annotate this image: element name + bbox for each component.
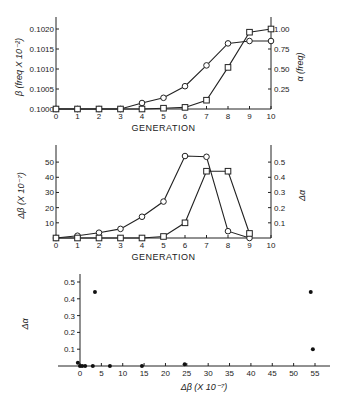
line-chart-1: 012345678910GENERATION0.10000.10050.1010… <box>14 17 305 133</box>
data-point <box>140 364 144 368</box>
square-marker <box>225 168 231 174</box>
x-tick-label: 15 <box>140 369 149 378</box>
square-marker <box>182 220 188 226</box>
circle-marker <box>139 100 145 106</box>
x-tick-label: 25 <box>182 369 191 378</box>
left-tick-label: 40 <box>45 173 54 182</box>
right-tick-label: 0.50 <box>274 65 290 74</box>
x-tick-label: 7 <box>204 112 209 121</box>
circle-marker <box>182 83 188 89</box>
left-axis-title: Δβ (X 10⁻⁷) <box>16 172 26 220</box>
y-tick-label: 0.2 <box>64 328 76 337</box>
square-marker <box>247 29 253 35</box>
square-marker <box>75 106 81 112</box>
circle-marker <box>182 153 188 159</box>
right-tick-label: 0.2 <box>274 204 286 213</box>
square-marker <box>268 26 274 32</box>
y-tick-label: 0.4 <box>64 295 76 304</box>
square-marker <box>225 65 231 71</box>
x-tick-label: 6 <box>183 112 188 121</box>
square-marker <box>139 235 145 241</box>
circle-marker <box>247 38 253 44</box>
x-tick-label: 10 <box>267 112 276 121</box>
square-marker <box>118 235 124 241</box>
right-tick-label: 1.00 <box>274 25 290 34</box>
x-tick-label: 4 <box>140 241 145 250</box>
square-marker <box>204 97 210 103</box>
data-point <box>91 364 95 368</box>
x-tick-label: 5 <box>99 369 104 378</box>
x-axis-label: GENERATION <box>132 252 196 262</box>
data-point <box>309 290 313 294</box>
x-tick-label: 4 <box>140 112 145 121</box>
circle-marker <box>204 154 210 160</box>
square-marker <box>96 235 102 241</box>
y-tick-label: 0.1 <box>64 345 76 354</box>
data-point <box>108 364 112 368</box>
circle-marker <box>268 38 274 44</box>
square-marker <box>75 235 81 241</box>
x-tick-label: 2 <box>97 241 102 250</box>
data-point <box>311 347 315 351</box>
circle-marker <box>225 41 231 47</box>
x-axis-label: Δβ (X 10⁻⁷) <box>180 382 228 392</box>
x-tick-label: 8 <box>226 241 231 250</box>
square-marker <box>118 106 124 112</box>
x-tick-label: 3 <box>118 241 123 250</box>
right-tick-label: 0.5 <box>274 158 286 167</box>
circle-marker <box>96 230 102 236</box>
square-marker <box>53 106 59 112</box>
x-tick-label: 7 <box>204 241 209 250</box>
circle-marker <box>225 228 231 234</box>
left-tick-label: 0.1005 <box>30 85 55 94</box>
x-tick-label: 50 <box>289 369 298 378</box>
y-tick-label: 0.3 <box>64 312 76 321</box>
right-axis-title: α (freq) <box>295 52 305 81</box>
left-tick-label: 10 <box>45 219 54 228</box>
x-tick-label: 55 <box>311 369 320 378</box>
left-axis-title: β (freq X 10⁻²) <box>14 38 24 97</box>
right-tick-label: 0.4 <box>274 173 286 182</box>
data-point <box>183 362 187 366</box>
x-tick-label: 0 <box>54 241 59 250</box>
left-tick-label: 50 <box>45 158 54 167</box>
right-tick-label: 0.25 <box>274 85 290 94</box>
left-tick-label: 0.1000 <box>30 105 55 114</box>
x-tick-label: 2 <box>97 112 102 121</box>
left-tick-label: 0.1010 <box>30 65 55 74</box>
right-axis-title: Δα <box>297 189 307 202</box>
circle-marker <box>161 199 167 205</box>
square-marker <box>204 168 210 174</box>
x-tick-label: 35 <box>225 369 234 378</box>
right-tick-label: 0.1 <box>274 219 286 228</box>
x-axis-label: GENERATION <box>132 123 196 133</box>
left-tick-label: 0.1015 <box>30 45 55 54</box>
x-tick-label: 0 <box>54 112 59 121</box>
square-marker <box>53 235 59 241</box>
x-tick-label: 3 <box>118 112 123 121</box>
x-tick-label: 10 <box>118 369 127 378</box>
x-tick-label: 8 <box>226 112 231 121</box>
x-tick-label: 20 <box>161 369 170 378</box>
square-marker <box>182 105 188 111</box>
square-marker <box>247 231 253 237</box>
x-tick-label: 0 <box>78 369 83 378</box>
x-tick-label: 9 <box>247 112 252 121</box>
x-tick-label: 5 <box>161 241 166 250</box>
x-tick-label: 45 <box>268 369 277 378</box>
right-tick-label: 0.75 <box>274 45 290 54</box>
circle-marker <box>139 214 145 220</box>
square-marker <box>139 106 145 112</box>
x-tick-label: 1 <box>75 112 80 121</box>
x-tick-label: 40 <box>246 369 255 378</box>
square-marker <box>161 105 167 111</box>
left-tick-label: 30 <box>45 188 54 197</box>
data-point <box>76 361 80 365</box>
circle-marker <box>204 63 210 69</box>
x-tick-label: 6 <box>183 241 188 250</box>
figure: 012345678910GENERATION0.10000.10050.1010… <box>0 0 342 406</box>
circle-marker <box>161 95 167 101</box>
x-tick-label: 10 <box>267 241 276 250</box>
x-tick-label: 1 <box>75 241 80 250</box>
line-chart-2: 012345678910GENERATION10203040500.10.20.… <box>16 145 307 262</box>
